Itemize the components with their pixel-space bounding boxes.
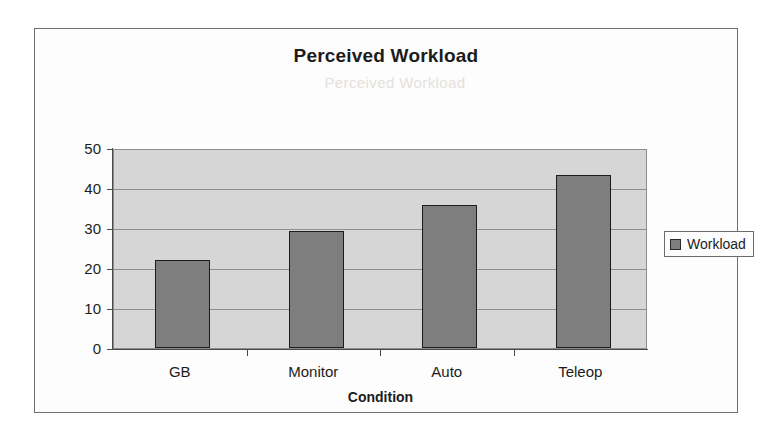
y-axis-label: 40 xyxy=(57,180,101,197)
bar-monitor xyxy=(289,231,344,348)
y-axis-label: 10 xyxy=(57,300,101,317)
chart-frame: Perceived Workload Perceived Workload Co… xyxy=(34,28,738,413)
x-axis-title: Condition xyxy=(113,389,648,405)
y-axis-tick xyxy=(107,229,113,230)
bar-gb xyxy=(155,260,210,348)
x-axis-label-teleop: Teleop xyxy=(514,363,648,380)
bar-teleop xyxy=(556,175,611,348)
x-axis-tick xyxy=(380,350,381,356)
x-axis-label-monitor: Monitor xyxy=(247,363,381,380)
y-axis-tick xyxy=(107,269,113,270)
x-axis-label-auto: Auto xyxy=(380,363,514,380)
y-axis-tick xyxy=(107,189,113,190)
x-axis-label-gb: GB xyxy=(113,363,247,380)
bar-auto xyxy=(422,205,477,348)
y-axis-label: 0 xyxy=(57,340,101,357)
y-axis-tick xyxy=(107,349,113,350)
x-axis-tick xyxy=(514,350,515,356)
y-axis-line xyxy=(112,148,113,350)
y-axis-label: 30 xyxy=(57,220,101,237)
x-axis-tick xyxy=(247,350,248,356)
chart-title: Perceived Workload xyxy=(35,45,737,67)
legend-label-workload: Workload xyxy=(687,236,746,252)
gridline xyxy=(114,149,646,150)
y-axis-label: 20 xyxy=(57,260,101,277)
legend-swatch-workload xyxy=(670,239,681,250)
chart-legend: Workload xyxy=(664,231,754,257)
y-axis-tick xyxy=(107,149,113,150)
y-axis-label: 50 xyxy=(57,140,101,157)
plot-area xyxy=(113,149,647,349)
y-axis-tick xyxy=(107,309,113,310)
ghost-bleed-through-text: Perceived Workload xyxy=(185,74,605,91)
